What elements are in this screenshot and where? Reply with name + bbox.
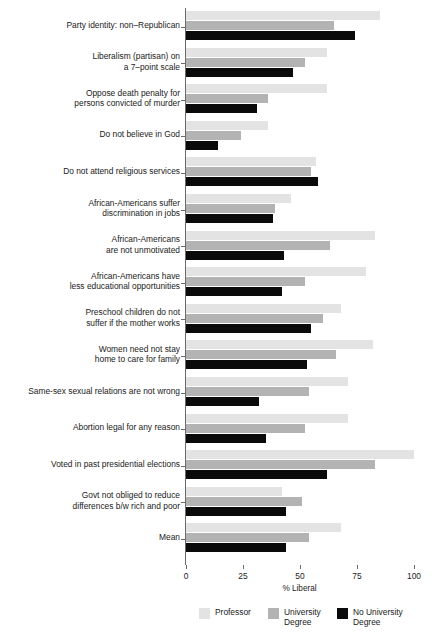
bar-set: [186, 414, 348, 444]
y-axis-tick: [181, 429, 185, 430]
legend-label-no-university-degree: No University Degree: [353, 607, 403, 627]
bar: [186, 523, 341, 532]
y-axis-tick: [181, 283, 185, 284]
bar: [186, 11, 380, 20]
x-axis-tick-label: 75: [337, 571, 377, 581]
bar: [186, 340, 373, 349]
bar-set: [186, 267, 366, 297]
x-axis-title: % Liberal: [185, 584, 414, 593]
bar-set: [186, 84, 327, 114]
bar-set: [186, 194, 291, 224]
x-axis-tick-label: 50: [280, 571, 320, 581]
bar-set: [186, 121, 268, 151]
bar: [186, 277, 305, 286]
bar: [186, 167, 311, 176]
y-axis-tick: [181, 393, 185, 394]
bar: [186, 487, 282, 496]
bar: [186, 450, 414, 459]
legend-swatch-university-degree: [268, 608, 279, 619]
legend-label-university-degree: University Degree: [284, 607, 321, 627]
x-axis-tick: [414, 565, 415, 569]
bar-set: [186, 487, 302, 517]
bar: [186, 104, 257, 113]
category-label: Same-sex sexual relations are not wrong: [2, 386, 180, 397]
bar: [186, 287, 282, 296]
bar-set: [186, 231, 375, 261]
bar-set: [186, 450, 414, 480]
bar-set: [186, 11, 380, 41]
y-axis-tick: [181, 502, 185, 503]
bar: [186, 460, 375, 469]
bar: [186, 94, 268, 103]
x-axis-tick-label: 0: [166, 571, 206, 581]
category-label: Women need not stay home to care for fam…: [2, 344, 180, 365]
category-label: Do not believe in God: [2, 129, 180, 140]
bar: [186, 21, 334, 30]
category-label: Mean: [2, 532, 180, 543]
x-axis-tick: [357, 565, 358, 569]
bar: [186, 214, 273, 223]
bar: [186, 157, 316, 166]
bar: [186, 360, 307, 369]
bar: [186, 241, 330, 250]
bar: [186, 324, 311, 333]
y-axis-tick: [181, 63, 185, 64]
legend-swatch-professor: [199, 608, 210, 619]
bar: [186, 68, 293, 77]
category-label: African-Americans are not unmotivated: [2, 234, 180, 255]
legend-item-no-university-degree: No University Degree: [337, 607, 403, 627]
bar: [186, 267, 366, 276]
bar: [186, 387, 309, 396]
bar: [186, 314, 323, 323]
bar: [186, 434, 266, 443]
y-axis-tick: [181, 210, 185, 211]
category-label: Abortion legal for any reason: [2, 422, 180, 433]
bar: [186, 121, 268, 130]
bar: [186, 543, 286, 552]
category-label: African-Americans have less educational …: [2, 271, 180, 292]
bar: [186, 251, 284, 260]
plot-area: Party identity: non–RepublicanLiberalism…: [0, 0, 434, 570]
category-label: Preschool children do not suffer if the …: [2, 307, 180, 328]
y-axis-tick: [181, 466, 185, 467]
bar: [186, 377, 348, 386]
y-axis-tick: [181, 246, 185, 247]
bar-set: [186, 48, 327, 78]
bar: [186, 58, 305, 67]
category-label: Voted in past presidential elections: [2, 459, 180, 470]
bar: [186, 497, 302, 506]
category-label: Govt not obliged to reduce differences b…: [2, 490, 180, 511]
bar: [186, 177, 318, 186]
x-axis-tick: [186, 565, 187, 569]
category-label: Liberalism (partisan) on a 7–point scale: [2, 51, 180, 72]
y-axis-tick: [181, 539, 185, 540]
bar: [186, 470, 327, 479]
x-axis-tick-label: 100: [394, 571, 434, 581]
x-axis-tick: [243, 565, 244, 569]
bar: [186, 231, 375, 240]
category-label: Oppose death penalty for persons convict…: [2, 88, 180, 109]
y-axis-tick: [181, 173, 185, 174]
legend-label-professor: Professor: [215, 607, 251, 617]
legend: Professor University Degree No Universit…: [0, 607, 434, 635]
y-axis-tick: [181, 100, 185, 101]
bar: [186, 350, 336, 359]
bar-set: [186, 523, 341, 553]
bar: [186, 533, 309, 542]
bar-set: [186, 340, 373, 370]
bar-set: [186, 304, 341, 334]
bar: [186, 31, 355, 40]
bar-set: [186, 157, 318, 187]
x-axis-tick: [300, 565, 301, 569]
bar: [186, 204, 275, 213]
legend-item-professor: Professor: [199, 607, 251, 619]
bar: [186, 414, 348, 423]
bar-chart: Party identity: non–RepublicanLiberalism…: [0, 0, 434, 635]
bar: [186, 424, 305, 433]
bar: [186, 48, 327, 57]
x-axis-tick-label: 25: [223, 571, 263, 581]
bar: [186, 131, 241, 140]
category-label: Party identity: non–Republican: [2, 20, 180, 31]
category-label: African-Americans suffer discrimination …: [2, 198, 180, 219]
bar: [186, 397, 259, 406]
